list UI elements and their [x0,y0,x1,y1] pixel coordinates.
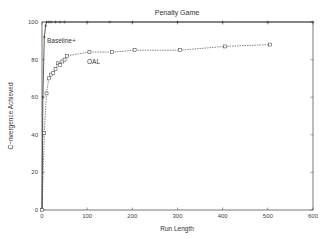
plus-marker [54,21,57,24]
x-tick-label: 0 [40,213,44,219]
plus-marker [131,21,134,24]
square-marker [133,49,136,52]
y-tick-label: 60 [31,94,38,100]
y-tick-label: 80 [31,57,38,63]
square-marker [47,77,50,80]
square-marker [223,45,226,48]
series-label-oal: OAL [87,58,100,65]
plus-marker [63,21,66,24]
square-marker [269,43,272,46]
square-marker [178,49,181,52]
y-tick-label: 20 [31,169,38,175]
series-label-baseline: Baseline+ [47,37,76,44]
x-axis-label: Run Length [160,225,194,233]
plus-marker [50,21,53,24]
plus-marker [86,21,89,24]
square-marker [52,71,55,74]
line-chart: Penalty Game 0100200300400500600 0204060… [0,0,332,239]
series-line-oal [42,45,270,210]
x-tick-label: 300 [172,213,183,219]
y-axis-ticks: 020406080100 [28,19,313,213]
square-marker [88,51,91,54]
x-tick-label: 100 [82,213,93,219]
y-tick-label: 100 [28,19,39,25]
x-tick-label: 200 [127,213,138,219]
series-group [41,21,315,212]
y-tick-label: 0 [35,207,39,213]
plus-marker [266,21,269,24]
square-marker [43,131,46,134]
x-tick-label: 500 [263,213,274,219]
square-marker [54,68,57,71]
plus-marker [59,21,62,24]
plus-marker [108,21,111,24]
plus-marker [221,21,224,24]
y-tick-label: 40 [31,132,38,138]
plus-marker [43,36,46,39]
y-axis-label: C~nvergence Achieved [7,82,15,149]
square-marker [45,92,48,95]
square-marker [41,209,44,212]
square-marker [111,51,114,54]
plus-marker [176,21,179,24]
square-marker [63,58,66,61]
square-marker [65,54,68,57]
plus-marker [44,24,47,27]
chart-title: Penalty Game [155,9,199,17]
plus-marker [312,21,315,24]
x-tick-label: 600 [308,213,319,219]
x-tick-label: 400 [218,213,229,219]
square-marker [59,64,62,67]
